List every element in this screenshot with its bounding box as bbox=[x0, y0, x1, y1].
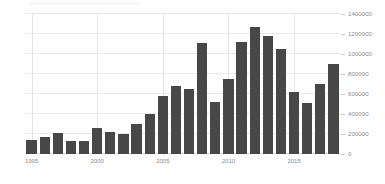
x-axis-label-1995: 1995 bbox=[25, 158, 38, 164]
bar-1996[interactable] bbox=[40, 137, 50, 154]
bar-2018[interactable] bbox=[328, 64, 338, 154]
bar-1999[interactable] bbox=[79, 141, 89, 155]
scan-artifact bbox=[30, 2, 140, 5]
bars-layer bbox=[25, 14, 340, 154]
bar-1995[interactable] bbox=[26, 140, 36, 154]
bar-2014[interactable] bbox=[276, 49, 286, 154]
bar-2001[interactable] bbox=[105, 132, 115, 154]
y-tick-mark bbox=[341, 94, 345, 95]
y-axis-label: 800000 bbox=[348, 70, 369, 79]
x-axis-label-2005: 2005 bbox=[156, 158, 169, 164]
y-axis-label: 1000000 bbox=[348, 50, 372, 59]
y-tick-mark bbox=[341, 14, 345, 15]
bar-2004[interactable] bbox=[145, 114, 155, 154]
bar-2017[interactable] bbox=[315, 84, 325, 154]
y-tick-mark bbox=[341, 134, 345, 135]
bar-2000[interactable] bbox=[92, 128, 102, 154]
y-axis-label: 400000 bbox=[348, 110, 369, 119]
bar-2007[interactable] bbox=[184, 89, 194, 154]
bar-2009[interactable] bbox=[210, 102, 220, 154]
bar-2006[interactable] bbox=[171, 86, 181, 155]
y-axis-label: 600000 bbox=[348, 90, 369, 99]
bar-2010[interactable] bbox=[223, 79, 233, 155]
bar-1998[interactable] bbox=[66, 141, 76, 154]
bar-2016[interactable] bbox=[302, 103, 312, 155]
bar-2012[interactable] bbox=[250, 27, 260, 154]
bar-2013[interactable] bbox=[263, 36, 273, 154]
x-axis-label-2000: 2000 bbox=[91, 158, 104, 164]
bar-chart: 0200000400000600000800000100000012000001… bbox=[0, 0, 385, 184]
bar-2003[interactable] bbox=[131, 124, 141, 154]
y-axis: 0200000400000600000800000100000012000001… bbox=[341, 0, 385, 184]
bar-1997[interactable] bbox=[53, 133, 63, 154]
bar-2011[interactable] bbox=[236, 42, 246, 154]
y-tick-mark bbox=[341, 54, 345, 55]
y-tick-mark bbox=[341, 74, 345, 75]
x-axis-label-2015: 2015 bbox=[287, 158, 300, 164]
x-axis: 19952000200520102015 bbox=[25, 158, 340, 172]
bar-2008[interactable] bbox=[197, 43, 207, 154]
y-tick-mark bbox=[341, 34, 345, 35]
y-axis-label: 1400000 bbox=[348, 10, 372, 19]
y-axis-label: 0 bbox=[348, 150, 351, 159]
y-axis-label: 1200000 bbox=[348, 30, 372, 39]
y-tick-mark bbox=[341, 154, 345, 155]
bar-2002[interactable] bbox=[118, 134, 128, 155]
bar-2005[interactable] bbox=[158, 96, 168, 154]
y-axis-label: 200000 bbox=[348, 130, 369, 139]
y-tick-mark bbox=[341, 114, 345, 115]
bar-2015[interactable] bbox=[289, 92, 299, 154]
x-axis-label-2010: 2010 bbox=[222, 158, 235, 164]
plot-area bbox=[25, 14, 340, 154]
